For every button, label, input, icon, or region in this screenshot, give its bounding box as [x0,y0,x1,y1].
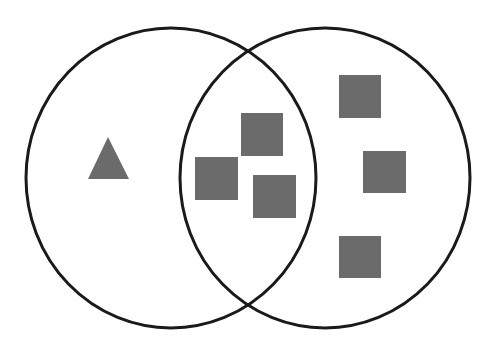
square-right-only [339,75,381,118]
square-intersection [241,113,283,156]
square-right-only [363,151,406,193]
set-elements [88,75,406,278]
square-intersection [195,157,238,200]
triangle-left-only [88,137,129,179]
venn-diagram [0,0,489,344]
square-intersection [253,175,296,218]
square-right-only [339,236,381,278]
